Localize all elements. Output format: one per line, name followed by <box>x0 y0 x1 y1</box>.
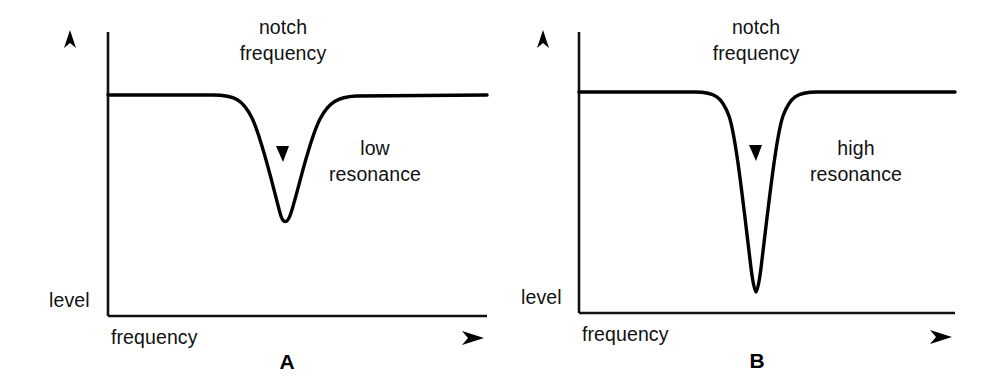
panel-a-x-axis-label: frequency <box>111 328 198 347</box>
panel-b-resonance-label-line2: resonance <box>810 165 902 184</box>
panel-b-group <box>537 30 955 344</box>
panel-b-y-axis-label: level <box>521 288 562 307</box>
panel-b-response-curve <box>579 92 955 292</box>
panel-a-response-curve <box>108 95 487 222</box>
panel-a-letter: A <box>279 350 294 374</box>
up-arrow-icon <box>64 30 76 48</box>
right-arrow-icon <box>462 331 484 345</box>
panel-b-resonance-label-line1: high <box>837 139 874 158</box>
up-arrow-icon <box>537 30 549 48</box>
panel-a-notch-label-line2: frequency <box>240 44 327 63</box>
panel-b-x-axis-label: frequency <box>582 325 669 344</box>
panel-a-y-axis-label: level <box>49 291 90 310</box>
right-arrow-icon <box>930 330 952 344</box>
panel-b-letter: B <box>749 349 764 373</box>
down-caret-icon <box>749 145 762 161</box>
panel-a-group <box>64 30 487 345</box>
panel-a-resonance-label-line1: low <box>360 139 390 158</box>
down-caret-icon <box>276 146 289 162</box>
panel-b-notch-label-line2: frequency <box>713 44 800 63</box>
figure-canvas: notch frequency low resonance level freq… <box>0 0 997 384</box>
panel-a-notch-label-line1: notch <box>259 18 307 37</box>
panel-b-notch-label-line1: notch <box>732 18 780 37</box>
panel-a-resonance-label-line2: resonance <box>329 165 421 184</box>
